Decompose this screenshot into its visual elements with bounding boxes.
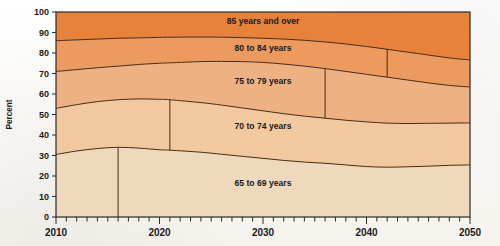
stacked-area-chart: 0102030405060708090100Percent20102020203… bbox=[0, 0, 500, 246]
band-label-75-to-79-years: 75 to 79 years bbox=[235, 76, 292, 86]
chart-root: 0102030405060708090100Percent20102020203… bbox=[0, 0, 500, 246]
x-tick-label-2040: 2040 bbox=[355, 227, 378, 238]
band-label-85-years-and-over: 85 years and over bbox=[227, 16, 300, 26]
y-tick-label-90: 90 bbox=[39, 28, 49, 38]
x-axis: 20102020203020402050 bbox=[45, 217, 482, 238]
band-label-80-to-84-years: 80 to 84 years bbox=[235, 43, 292, 53]
y-axis-title: Percent bbox=[5, 99, 14, 129]
band-label-65-to-69-years: 65 to 69 years bbox=[235, 178, 292, 188]
y-tick-label-10: 10 bbox=[39, 192, 49, 202]
y-tick-label-100: 100 bbox=[34, 7, 49, 17]
y-tick-label-20: 20 bbox=[39, 171, 49, 181]
x-tick-label-2020: 2020 bbox=[148, 227, 171, 238]
y-tick-label-30: 30 bbox=[39, 151, 49, 161]
x-tick-label-2010: 2010 bbox=[45, 227, 68, 238]
y-tick-label-80: 80 bbox=[39, 48, 49, 58]
y-tick-label-40: 40 bbox=[39, 130, 49, 140]
x-tick-label-2050: 2050 bbox=[459, 227, 482, 238]
y-axis: 0102030405060708090100 bbox=[34, 7, 56, 222]
y-tick-label-70: 70 bbox=[39, 69, 49, 79]
y-tick-label-60: 60 bbox=[39, 89, 49, 99]
y-tick-label-50: 50 bbox=[39, 110, 49, 120]
y-tick-label-0: 0 bbox=[44, 212, 49, 222]
band-label-70-to-74-years: 70 to 74 years bbox=[235, 121, 292, 131]
x-tick-label-2030: 2030 bbox=[252, 227, 275, 238]
